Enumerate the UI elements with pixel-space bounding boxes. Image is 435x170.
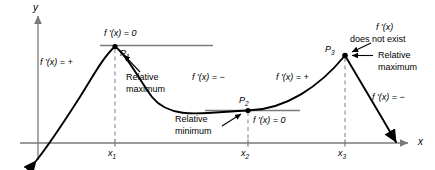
x-axis-label: x <box>418 136 423 147</box>
callout-relative-maximum-3-line2: maximum <box>378 62 417 74</box>
tick-label-x2-sub: 2 <box>246 153 250 160</box>
derivative-sign-figure: y x x1 x2 x3 P1 P2 P3 f '(x) = 0 f '(x) … <box>0 0 435 170</box>
annotation-derivative-plus-right: f '(x) = + <box>276 72 309 83</box>
point-label-p3-sub: 3 <box>331 49 335 56</box>
point-label-p2-sub: 2 <box>245 100 249 107</box>
callout-relative-minimum: Relative minimum <box>175 114 212 137</box>
callout-relative-maximum-3: Relative maximum <box>378 50 417 73</box>
function-curve <box>36 47 345 162</box>
tick-label-x2: x2 <box>241 148 249 162</box>
point-dot-p1 <box>112 44 117 49</box>
point-label-p2: P2 <box>239 95 249 109</box>
tick-label-x3-sub: 3 <box>343 153 347 160</box>
tick-label-x1: x1 <box>108 148 116 162</box>
point-dot-p3 <box>342 53 348 59</box>
annotation-derivative-minus-right: f '(x) = − <box>372 92 405 103</box>
annotation-derivative-zero-top: f '(x) = 0 <box>104 28 136 39</box>
tick-label-x3: x3 <box>338 148 346 162</box>
callout-derivative-does-not-exist: f '(x) does not exist <box>350 22 406 45</box>
point-label-p3: P3 <box>325 44 335 58</box>
annotation-derivative-minus-middle: f '(x) = − <box>192 72 225 83</box>
annotation-derivative-zero-middle: f '(x) = 0 <box>253 115 285 126</box>
leader-arrow-relmin <box>222 114 241 126</box>
callout-dne-line2: does not exist <box>350 34 406 46</box>
point-label-p1-sub: 1 <box>126 53 130 60</box>
tick-label-x1-sub: 1 <box>113 153 117 160</box>
callout-relative-maximum-1-line2: maximum <box>126 84 165 96</box>
callout-dne-line1: f '(x) <box>376 22 406 34</box>
point-label-p1: P1 <box>120 48 130 62</box>
callout-relative-maximum-1-line1: Relative <box>126 72 165 84</box>
callout-relative-minimum-line1: Relative <box>175 114 212 126</box>
callout-relative-minimum-line2: minimum <box>175 126 212 138</box>
callout-relative-maximum-1: Relative maximum <box>126 72 165 95</box>
annotation-derivative-plus-left: f '(x) = + <box>40 57 73 68</box>
callout-relative-maximum-3-line1: Relative <box>378 50 417 62</box>
y-axis-label: y <box>33 2 38 13</box>
